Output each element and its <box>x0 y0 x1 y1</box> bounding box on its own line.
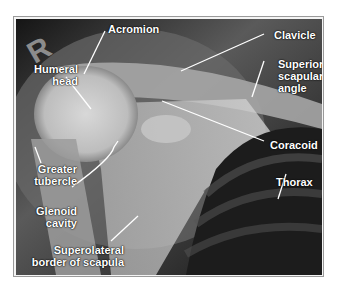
label-acromion: Acromion <box>108 23 159 35</box>
label-superolateral-border: Superolateral border of scapula <box>17 244 124 268</box>
label-humeral-head: Humeral head <box>20 63 78 87</box>
label-glenoid-cavity: Glenoid cavity <box>19 205 77 229</box>
label-superior-scapular-angle: Superior scapular angle <box>278 58 322 94</box>
label-coracoid: Coracoid <box>270 139 318 151</box>
label-greater-tubercle: Greater tubercle <box>19 163 77 187</box>
label-clavicle: Clavicle <box>274 29 316 41</box>
xray-image: R Acromion Clavicle Humeral head Superio… <box>16 19 322 275</box>
label-thorax: Thorax <box>276 176 313 188</box>
